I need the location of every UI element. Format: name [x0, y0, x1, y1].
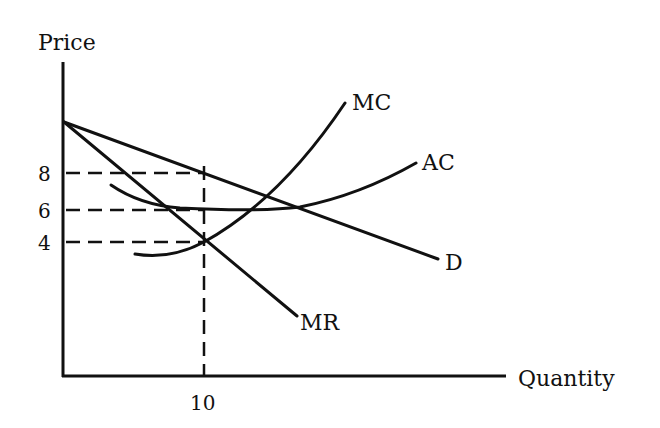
x-axis-label: Quantity: [518, 366, 615, 391]
y-tick-8: 8: [38, 162, 51, 186]
mc-label: MC: [352, 90, 391, 115]
y-axis-label: Price: [38, 30, 96, 55]
marginal-revenue-curve: [64, 122, 297, 316]
y-tick-4: 4: [38, 231, 51, 255]
mr-label: MR: [300, 310, 341, 335]
y-tick-6: 6: [38, 199, 51, 223]
average-cost-curve: [111, 163, 416, 210]
d-label: D: [445, 250, 463, 275]
marginal-cost-curve: [135, 103, 345, 256]
monopoly-chart: Price Quantity 8 6 4 10 MC AC D MR: [0, 0, 660, 428]
x-tick-10: 10: [190, 391, 215, 415]
ac-label: AC: [421, 150, 455, 175]
